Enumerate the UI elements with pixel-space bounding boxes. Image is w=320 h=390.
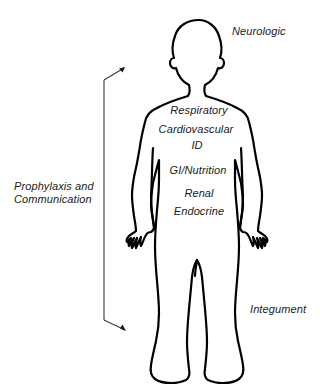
prophylaxis-bracket <box>104 68 125 330</box>
bracket-arrowheads <box>119 67 126 331</box>
label-respiratory: Respiratory <box>170 104 227 117</box>
diagram-canvas: Respiratory Cardiovascular ID GI/Nutriti… <box>0 0 320 390</box>
label-prophylaxis-line2: Communication <box>14 193 106 206</box>
label-renal: Renal <box>184 187 213 200</box>
body-outline <box>127 20 268 383</box>
label-gi-nutrition: GI/Nutrition <box>170 164 227 177</box>
label-endocrine: Endocrine <box>174 205 224 218</box>
label-cardiovascular: Cardiovascular <box>159 123 234 136</box>
label-id: ID <box>191 139 202 152</box>
label-prophylaxis-and-communication: Prophylaxis and Communication <box>14 180 106 206</box>
label-integument: Integument <box>250 303 306 316</box>
label-neurologic: Neurologic <box>232 25 286 38</box>
label-prophylaxis-line1: Prophylaxis and <box>14 180 106 193</box>
